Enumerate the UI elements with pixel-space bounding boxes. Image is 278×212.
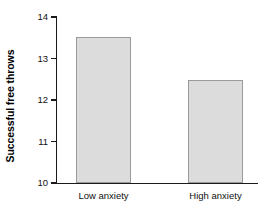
- bar-chart: Successful free throws 1011121314 Low an…: [0, 0, 278, 212]
- y-tick-label-text: 14: [26, 11, 48, 22]
- bar: [188, 80, 243, 183]
- y-tick-mark: [51, 141, 56, 142]
- y-axis-title: Successful free throws: [0, 0, 20, 212]
- y-tick-label: 10: [26, 177, 48, 189]
- x-axis-line: [56, 183, 258, 184]
- y-tick-label-text: 13: [26, 53, 48, 64]
- y-tick-mark: [51, 16, 56, 17]
- y-tick-mark: [51, 99, 56, 100]
- x-category-label: High anxiety: [171, 190, 261, 201]
- y-tick-label-text: 11: [26, 136, 48, 147]
- y-tick-label: 14: [26, 11, 48, 23]
- y-tick-label-text: 10: [26, 177, 48, 188]
- y-tick-label: 11: [26, 136, 48, 148]
- y-tick-mark: [51, 182, 56, 183]
- y-tick-mark: [51, 58, 56, 59]
- y-tick-label: 13: [26, 53, 48, 65]
- bar: [76, 37, 131, 183]
- x-category-label: Low anxiety: [59, 190, 149, 201]
- y-tick-label-text: 12: [26, 94, 48, 105]
- y-axis-line: [56, 16, 57, 184]
- y-tick-label: 12: [26, 94, 48, 106]
